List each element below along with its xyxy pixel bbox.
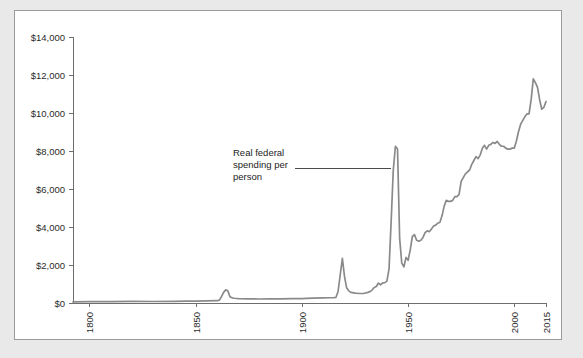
x-axis-ticks: 180018501900195020002015 [84, 303, 551, 333]
annotation-line-1: Real federal [233, 147, 284, 158]
x-tick-label: 1900 [297, 312, 308, 333]
y-tick-label: $4,000 [36, 222, 65, 233]
y-tick-label: $2,000 [36, 260, 65, 271]
data-line-real-federal-spending-per-person [73, 79, 546, 302]
x-tick-label: 1950 [403, 312, 414, 333]
y-tick-label: $0 [54, 298, 65, 309]
annotation-line-2: spending per [233, 159, 288, 170]
y-axis-ticks: $0$2,000$4,000$6,000$8,000$10,000$12,000… [31, 32, 73, 309]
y-tick-label: $12,000 [31, 70, 65, 81]
chart-figure: $0$2,000$4,000$6,000$8,000$10,000$12,000… [0, 0, 583, 358]
x-tick-label: 2000 [509, 312, 520, 333]
y-tick-label: $10,000 [31, 108, 65, 119]
annotation-real-federal-spending: Real federal spending per person [233, 147, 391, 182]
y-tick-label: $6,000 [36, 184, 65, 195]
y-tick-label: $8,000 [36, 146, 65, 157]
chart-canvas: $0$2,000$4,000$6,000$8,000$10,000$12,000… [15, 11, 561, 339]
y-tick-label: $14,000 [31, 32, 65, 43]
x-tick-label: 2015 [541, 312, 552, 333]
annotation-line-3: person [233, 171, 262, 182]
x-tick-label: 1850 [191, 312, 202, 333]
chart-panel: $0$2,000$4,000$6,000$8,000$10,000$12,000… [14, 10, 562, 340]
x-tick-label: 1800 [84, 312, 95, 333]
